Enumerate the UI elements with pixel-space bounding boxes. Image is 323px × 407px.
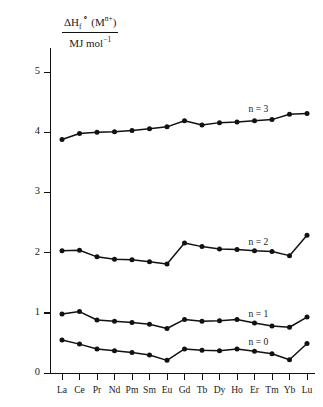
data-point <box>182 118 187 123</box>
data-point <box>95 130 100 135</box>
data-point <box>112 257 117 262</box>
data-point <box>270 249 275 254</box>
data-point <box>130 320 135 325</box>
data-point <box>147 352 152 357</box>
series-label-n=3: n = 3 <box>249 103 269 114</box>
data-point <box>235 120 240 125</box>
data-point <box>235 247 240 252</box>
series-label-n=1: n = 1 <box>249 308 269 319</box>
data-point <box>305 341 310 346</box>
data-point <box>252 118 257 123</box>
data-point <box>165 326 170 331</box>
data-point <box>112 348 117 353</box>
series-n=3 <box>60 111 310 142</box>
data-point <box>182 241 187 246</box>
data-point <box>217 318 222 323</box>
data-point <box>252 349 257 354</box>
data-point <box>287 357 292 362</box>
series-n=0 <box>60 337 310 362</box>
data-point <box>287 325 292 330</box>
data-point <box>147 259 152 264</box>
data-point <box>112 319 117 324</box>
series-label-n=2: n = 2 <box>249 236 269 247</box>
data-point <box>270 117 275 122</box>
data-point <box>147 126 152 131</box>
data-point <box>130 128 135 133</box>
data-point <box>112 129 117 134</box>
data-point <box>130 257 135 262</box>
chart-canvas: ΔHf⚬ (Mn+) MJ mol−1 012345 LaCePrNdPmSmE… <box>0 0 323 407</box>
data-point <box>287 112 292 117</box>
series-line <box>62 114 307 140</box>
data-point <box>305 111 310 116</box>
data-point <box>60 312 65 317</box>
data-point <box>217 247 222 252</box>
data-point <box>287 253 292 258</box>
data-point <box>130 350 135 355</box>
data-point <box>147 322 152 327</box>
series-n=1 <box>60 309 310 331</box>
data-point <box>165 358 170 363</box>
data-point <box>165 124 170 129</box>
data-point <box>77 131 82 136</box>
series-line <box>62 235 307 264</box>
data-point <box>235 346 240 351</box>
series-label-n=0: n = 0 <box>249 336 269 347</box>
data-point <box>60 337 65 342</box>
data-point <box>200 244 205 249</box>
data-point <box>252 248 257 253</box>
data-point <box>217 348 222 353</box>
data-point <box>217 120 222 125</box>
data-point <box>182 317 187 322</box>
data-point <box>305 315 310 320</box>
data-point <box>270 324 275 329</box>
data-point <box>77 342 82 347</box>
data-point <box>200 348 205 353</box>
data-point <box>305 233 310 238</box>
data-point <box>165 262 170 267</box>
data-point <box>252 321 257 326</box>
data-point <box>77 309 82 314</box>
data-point <box>182 346 187 351</box>
data-point <box>95 254 100 259</box>
data-point <box>200 123 205 128</box>
data-point <box>77 248 82 253</box>
series-n=2 <box>60 233 310 267</box>
data-point <box>235 317 240 322</box>
series-plot-area <box>0 0 323 407</box>
data-point <box>95 318 100 323</box>
data-point <box>60 137 65 142</box>
data-point <box>270 351 275 356</box>
data-point <box>95 346 100 351</box>
data-point <box>60 248 65 253</box>
data-point <box>200 319 205 324</box>
